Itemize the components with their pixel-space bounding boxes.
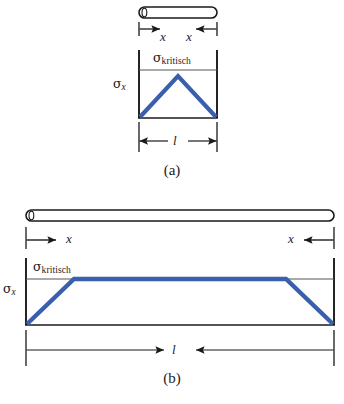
panel-b-left-x-label: x bbox=[66, 232, 72, 245]
panel-b-fiber-rod bbox=[26, 210, 334, 221]
panel-a-length-label: l bbox=[173, 134, 177, 147]
panel-a-sigma-x-subscript: x bbox=[122, 82, 126, 92]
panel-b-right-x-label: x bbox=[288, 232, 294, 245]
panel-b-y-axis-label: σx bbox=[3, 283, 16, 298]
panel-b-sigma-subscript: kritisch bbox=[42, 265, 71, 275]
panel-b-length-label: l bbox=[172, 343, 176, 356]
panel-a-length-dimension bbox=[139, 122, 217, 152]
figure-root: x x σkritisch σx l (a) x x σkritisch σx … bbox=[0, 0, 344, 404]
panel-a-sigma-glyph: σ bbox=[153, 50, 162, 65]
panel-b-length-dimension bbox=[26, 330, 334, 366]
panel-b-plot-frame bbox=[25, 258, 335, 325]
panel-a-fiber-rod bbox=[139, 7, 217, 18]
panel-b-critical-stress-label: σkritisch bbox=[33, 261, 71, 276]
panel-b-sigma-glyph: σ bbox=[33, 259, 42, 274]
panel-a-caption: (a) bbox=[0, 163, 344, 178]
panel-a-right-x-label: x bbox=[186, 30, 192, 43]
panel-a-critical-stress-label: σkritisch bbox=[153, 52, 191, 67]
panel-a-x-dimension bbox=[139, 22, 217, 36]
panel-b-stress-profile bbox=[27, 279, 333, 324]
panel-b-sigma-x-glyph: σ bbox=[3, 281, 12, 296]
panel-b-sigma-x-subscript: x bbox=[12, 287, 16, 297]
panel-a-left-x-label: x bbox=[160, 30, 166, 43]
panel-a-stress-profile bbox=[140, 76, 216, 117]
panel-a-sigma-x-glyph: σ bbox=[113, 76, 122, 91]
panel-b-caption: (b) bbox=[0, 371, 344, 386]
panel-a-y-axis-label: σx bbox=[113, 78, 126, 93]
panel-a-sigma-subscript: kritisch bbox=[162, 56, 191, 66]
